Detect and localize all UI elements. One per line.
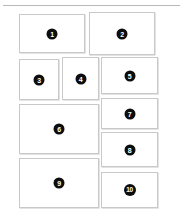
- block-number-badge: 1: [47, 28, 58, 39]
- layout-block[interactable]: 10: [101, 172, 158, 208]
- layout-block[interactable]: 3: [19, 59, 59, 100]
- block-number-badge: 4: [75, 73, 86, 84]
- block-number-badge: 6: [54, 124, 65, 135]
- block-number-badge: 2: [117, 28, 128, 39]
- block-number-badge: 8: [124, 144, 135, 155]
- layout-block[interactable]: 1: [19, 14, 85, 53]
- layout-block[interactable]: 9: [19, 158, 99, 208]
- layout-block[interactable]: 8: [101, 132, 158, 167]
- block-number-badge: 5: [124, 70, 135, 81]
- block-number-badge: 7: [124, 108, 135, 119]
- layout-block[interactable]: 7: [101, 98, 158, 129]
- block-number-badge: 10: [124, 184, 136, 196]
- block-number-badge: 9: [54, 178, 65, 189]
- layout-block[interactable]: 2: [89, 12, 155, 55]
- layout-block[interactable]: 6: [19, 104, 99, 154]
- layout-block[interactable]: 5: [101, 57, 158, 94]
- wireframe-canvas: 1 2 3 4 5 6 7 8 9 10: [0, 0, 187, 220]
- block-number-badge: 3: [34, 74, 45, 85]
- layout-block[interactable]: 4: [62, 57, 99, 100]
- top-divider: [3, 5, 180, 6]
